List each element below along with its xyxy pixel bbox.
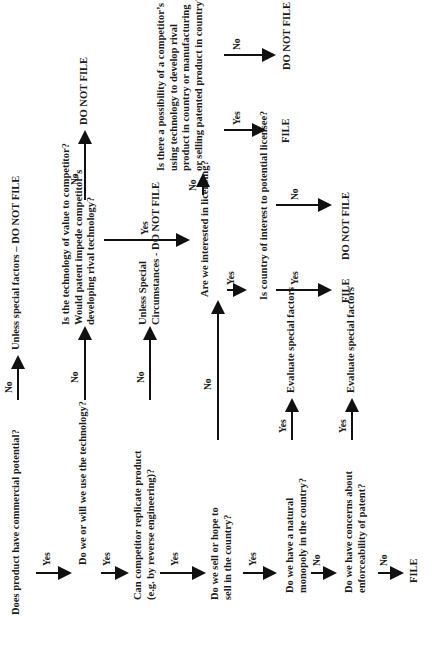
arrow-down-icon <box>318 283 332 297</box>
question-line: Do we sell or hope to <box>209 507 222 600</box>
connector-line <box>276 289 320 291</box>
arrow-down-icon <box>263 566 277 580</box>
arrow-right-icon <box>285 398 299 412</box>
connector-line <box>291 410 293 440</box>
connector-line <box>36 572 60 574</box>
result-line: Circumstances - DO NOT FILE <box>150 182 163 325</box>
connector-line <box>160 572 194 574</box>
arrow-down-icon <box>262 48 276 62</box>
question-line: sell in the country? <box>222 507 235 600</box>
arrow-right-icon <box>11 355 25 369</box>
label-yes: Yes <box>338 419 348 433</box>
label-no: No <box>312 554 322 566</box>
question-country-interest-licensee: Is country of interest to potential lice… <box>258 111 271 300</box>
question-line: (e.g. by reverse engineering)? <box>145 450 158 600</box>
label-yes: Yes <box>278 419 288 433</box>
connector-line <box>217 312 219 440</box>
arrow-down-icon <box>390 566 404 580</box>
label-yes: Yes <box>290 271 300 285</box>
connector-line <box>84 142 86 200</box>
label-yes: Yes <box>170 552 180 566</box>
arrow-right-icon <box>78 130 92 144</box>
arrow-right-icon <box>78 326 92 340</box>
connector-line <box>17 368 19 400</box>
label-no: No <box>136 371 146 383</box>
question-line: Is there a possibility of a competitor’s <box>155 0 168 171</box>
label-yes: Yes <box>248 552 258 566</box>
arrow-down-icon <box>192 566 206 580</box>
connector-line <box>224 129 254 131</box>
question-use-technology: Do we or will we use the technology? <box>77 401 90 565</box>
connector-line <box>84 338 86 400</box>
connector-line <box>276 204 320 206</box>
connector-line <box>149 338 151 400</box>
label-no: No <box>4 381 14 393</box>
arrow-down-icon <box>176 233 190 247</box>
result-file: FILE <box>408 558 421 583</box>
label-yes: Yes <box>102 552 112 566</box>
result-do-not-file: DO NOT FILE <box>281 2 294 70</box>
question-natural-monopoly: Do we have a natural monopoly in the cou… <box>284 478 309 593</box>
result-evaluate-special-factors: Evaluate special factors <box>345 287 358 393</box>
question-line: product in country or manufacturing <box>180 0 193 171</box>
question-line: using technology to develop rival <box>168 0 181 171</box>
result-line: Unless Special <box>137 182 150 325</box>
question-line: Do we have concerns about <box>343 471 356 593</box>
question-line: Do we have a natural <box>284 478 297 593</box>
arrow-right-icon <box>143 326 157 340</box>
question-commercial-potential: Does product have commercial potential? <box>10 429 23 615</box>
question-value-to-competitor: Is the technology of value to competitor… <box>60 143 98 325</box>
arrow-right-icon <box>196 173 210 187</box>
connector-line <box>243 572 265 574</box>
result-unless-special-circumstances: Unless Special Circumstances - DO NOT FI… <box>137 182 162 325</box>
connector-line <box>224 54 264 56</box>
label-yes: Yes <box>232 111 242 125</box>
arrow-down-icon <box>58 566 72 580</box>
question-line: Is the technology of value to competitor… <box>60 143 73 325</box>
result-do-not-file: DO NOT FILE <box>340 192 353 260</box>
label-yes: Yes <box>226 271 236 285</box>
question-line: Can competitor replicate product <box>132 450 145 600</box>
result-evaluate-special-factors: Evaluate special factors <box>285 287 298 393</box>
label-no: No <box>232 38 242 50</box>
arrow-down-icon <box>233 283 247 297</box>
result-unless-special-factors: Unless special factors – DO NOT FILE <box>10 176 23 350</box>
label-no: No <box>379 554 389 566</box>
label-no: No <box>70 173 80 185</box>
label-no: No <box>290 188 300 200</box>
question-competitor-replicate: Can competitor replicate product (e.g. b… <box>132 450 157 600</box>
question-line: enforceability of patent? <box>356 471 369 593</box>
label-yes: Yes <box>42 552 52 566</box>
arrow-down-icon <box>115 566 129 580</box>
arrow-right-icon <box>345 398 359 412</box>
connector-line <box>351 410 353 440</box>
arrow-down-icon <box>323 566 337 580</box>
label-no: No <box>70 371 80 383</box>
result-do-not-file: DO NOT FILE <box>78 57 91 125</box>
arrow-down-icon <box>318 198 332 212</box>
flowchart-canvas: Does product have commercial potential? … <box>0 0 432 655</box>
question-line: monopoly in the country? <box>297 478 310 593</box>
question-competitor-possibility: Is there a possibility of a competitor’s… <box>155 0 205 171</box>
arrow-right-icon <box>211 300 225 314</box>
label-no: No <box>188 179 198 191</box>
question-sell-in-country: Do we sell or hope to sell in the countr… <box>209 507 234 600</box>
result-file: FILE <box>280 118 293 143</box>
question-enforceability: Do we have concerns about enforceability… <box>343 471 368 593</box>
question-line: developing rival technology? <box>85 143 98 325</box>
question-line: or selling patented product in country? <box>193 0 206 171</box>
label-no: No <box>203 378 213 390</box>
